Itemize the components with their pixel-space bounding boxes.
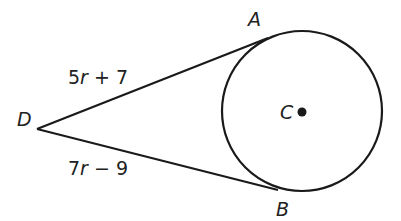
label-c: C [280, 101, 294, 123]
label-d: D [17, 108, 32, 130]
tangent-diagram: A B C D 5r + 7 7r − 9 [0, 0, 401, 221]
label-a: A [246, 8, 261, 30]
label-da-length: 5r + 7 [68, 66, 128, 88]
label-b: B [276, 198, 289, 220]
label-db-length: 7r − 9 [68, 157, 128, 179]
center-dot [298, 108, 307, 117]
